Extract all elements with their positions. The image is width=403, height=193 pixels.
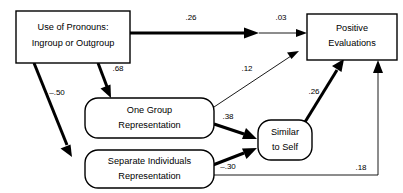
coefficient-label: .03 xyxy=(275,13,287,22)
path-one-group-to-positive: .12 xyxy=(214,51,299,107)
coefficient-label: –.30 xyxy=(220,162,236,171)
node-box xyxy=(85,98,214,138)
node-box xyxy=(307,14,397,60)
node-label-line1: Positive xyxy=(336,23,368,33)
path-pronouns-to-positive-thin: .03 xyxy=(259,13,307,37)
node-similar-to-self: Similar to Self xyxy=(258,120,312,160)
coefficient-label: .26 xyxy=(185,13,197,22)
path-diagram: .26 .03 .68 –.50 .12 xyxy=(0,0,403,193)
node-one-group-representation: One Group Representation xyxy=(85,98,214,138)
coefficient-label: .26 xyxy=(308,87,320,96)
path-separate-individuals-to-similar: –.30 xyxy=(213,148,257,171)
coefficient-label: .38 xyxy=(222,112,234,121)
node-box xyxy=(16,11,130,63)
node-positive-evaluations: Positive Evaluations xyxy=(307,14,397,60)
path-pronouns-to-separate-individuals: –.50 xyxy=(34,63,72,157)
node-label-line2: Representation xyxy=(118,120,180,130)
node-label-line2: Evaluations xyxy=(328,38,376,48)
node-label-line2: to Self xyxy=(272,142,298,152)
node-label-line1: Similar xyxy=(271,127,299,137)
coefficient-label: .18 xyxy=(355,163,367,172)
node-label-line1: Use of Pronouns: xyxy=(38,22,109,32)
path-pronouns-to-one-group: .68 xyxy=(98,63,124,98)
coefficient-label: .68 xyxy=(112,64,124,73)
node-separate-individuals-representation: Separate Individuals Representation xyxy=(85,150,214,188)
coefficient-label: –.50 xyxy=(49,88,65,97)
path-one-group-to-similar: .38 xyxy=(214,112,257,139)
diagram-canvas: .26 .03 .68 –.50 .12 xyxy=(0,0,403,193)
path-pronouns-to-positive-thick: .26 xyxy=(130,13,259,38)
node-label-line1: Separate Individuals xyxy=(108,156,192,166)
path-similar-to-positive: .26 xyxy=(305,59,344,122)
node-label-line1: One Group xyxy=(127,105,172,115)
node-box xyxy=(258,120,312,160)
node-label-line2: Representation xyxy=(118,171,180,181)
node-label-line2: Ingroup or Outgroup xyxy=(32,38,115,48)
coefficient-label: .12 xyxy=(241,64,253,73)
node-use-of-pronouns: Use of Pronouns: Ingroup or Outgroup xyxy=(16,11,130,63)
